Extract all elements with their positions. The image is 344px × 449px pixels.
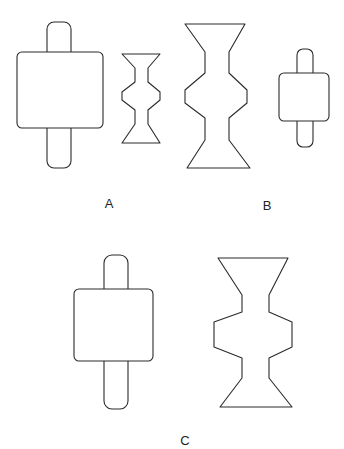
- group-a-label: A: [105, 196, 114, 211]
- group-b-label: B: [263, 198, 272, 213]
- group-a-axle-block: [17, 22, 103, 168]
- group-c-axle-block: [74, 255, 153, 409]
- group-b-axle-block: [279, 49, 329, 147]
- group-c-label: C: [180, 433, 189, 448]
- figure-canvas: [0, 0, 344, 449]
- group-b-spool: [185, 24, 250, 168]
- group-c-spool: [214, 258, 292, 407]
- group-a-spool: [122, 54, 160, 143]
